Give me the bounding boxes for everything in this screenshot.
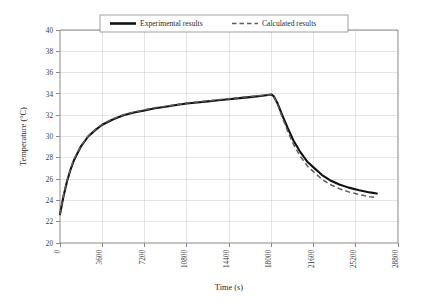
y-tick-label: 32 [46, 112, 54, 120]
y-tick-label: 36 [46, 69, 54, 77]
y-tick-label: 40 [46, 27, 54, 35]
x-tick-label: 28800 [392, 250, 400, 268]
temperature-vs-time-chart: 036007200108001440018000216002520028800 … [0, 0, 421, 301]
y-tick-label: 26 [46, 176, 54, 184]
y-axis-ticks: 2022242628303234363840 [46, 27, 60, 248]
series-line-dashed [60, 94, 377, 214]
y-tick-label: 38 [46, 48, 54, 56]
x-tick-label: 10800 [181, 250, 189, 268]
figure-container: 036007200108001440018000216002520028800 … [0, 0, 421, 301]
x-tick-label: 14400 [223, 250, 231, 268]
y-tick-label: 34 [46, 91, 54, 99]
x-tick-label: 3600 [96, 250, 104, 265]
y-tick-label: 28 [46, 154, 54, 162]
legend-label: Experimental results [140, 19, 203, 28]
grid-lines [60, 30, 398, 243]
data-series [60, 94, 377, 214]
x-tick-label: 21600 [308, 250, 316, 268]
y-tick-label: 24 [46, 197, 54, 205]
legend: Experimental resultsCalculated results [100, 15, 348, 32]
y-tick-label: 20 [46, 240, 54, 248]
x-tick-label: 25200 [350, 250, 358, 268]
y-axis-title: Temperature (°C) [19, 107, 28, 166]
y-tick-label: 22 [46, 218, 54, 226]
x-tick-label: 18000 [265, 250, 273, 268]
y-tick-label: 30 [46, 133, 54, 141]
series-line-solid [60, 94, 377, 214]
legend-label: Calculated results [262, 19, 316, 28]
x-axis-ticks: 036007200108001440018000216002520028800 [54, 243, 400, 268]
x-tick-label: 7200 [139, 250, 147, 265]
x-axis-title: Time (s) [215, 283, 244, 292]
x-tick-label: 0 [54, 250, 62, 254]
